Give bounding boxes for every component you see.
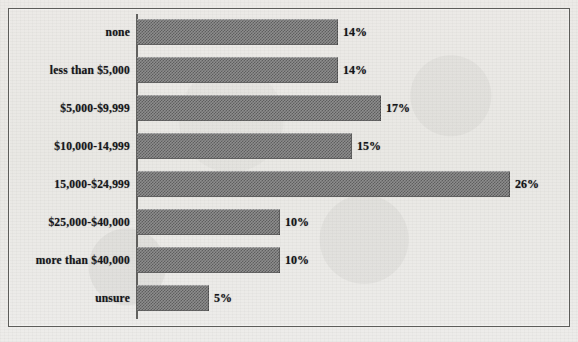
- bar-value-label: 10%: [285, 209, 309, 235]
- bar-value-label: 15%: [357, 133, 381, 159]
- bar-value-label: 14%: [343, 57, 367, 83]
- category-label: 15,000-$24,999: [0, 171, 130, 197]
- bar: [137, 19, 338, 45]
- bar-value-label: 26%: [515, 171, 539, 197]
- bar-row: none14%: [0, 19, 578, 45]
- category-label: $10,000-14,999: [0, 133, 130, 159]
- bar: [137, 133, 352, 159]
- bar-row: 15,000-$24,99926%: [0, 171, 578, 197]
- bar-row: more than $40,00010%: [0, 247, 578, 273]
- bar: [137, 95, 381, 121]
- chart-page: none14%less than $5,00014%$5,000-$9,9991…: [0, 0, 578, 342]
- category-label: none: [0, 19, 130, 45]
- bar-value-label: 5%: [214, 285, 232, 311]
- bar-chart-plot: none14%less than $5,00014%$5,000-$9,9991…: [0, 0, 578, 342]
- bar-row: less than $5,00014%: [0, 57, 578, 83]
- category-label: $25,000-$40,000: [0, 209, 130, 235]
- bar: [137, 247, 280, 273]
- bar: [137, 57, 338, 83]
- bar-row: unsure5%: [0, 285, 578, 311]
- category-label: $5,000-$9,999: [0, 95, 130, 121]
- bar: [137, 285, 209, 311]
- category-label: more than $40,000: [0, 247, 130, 273]
- bar-row: $25,000-$40,00010%: [0, 209, 578, 235]
- bar-value-label: 10%: [285, 247, 309, 273]
- bar: [137, 171, 510, 197]
- bar-value-label: 14%: [343, 19, 367, 45]
- bar: [137, 209, 280, 235]
- category-label: less than $5,000: [0, 57, 130, 83]
- category-label: unsure: [0, 285, 130, 311]
- bar-value-label: 17%: [386, 95, 410, 121]
- bar-row: $5,000-$9,99917%: [0, 95, 578, 121]
- bar-row: $10,000-14,99915%: [0, 133, 578, 159]
